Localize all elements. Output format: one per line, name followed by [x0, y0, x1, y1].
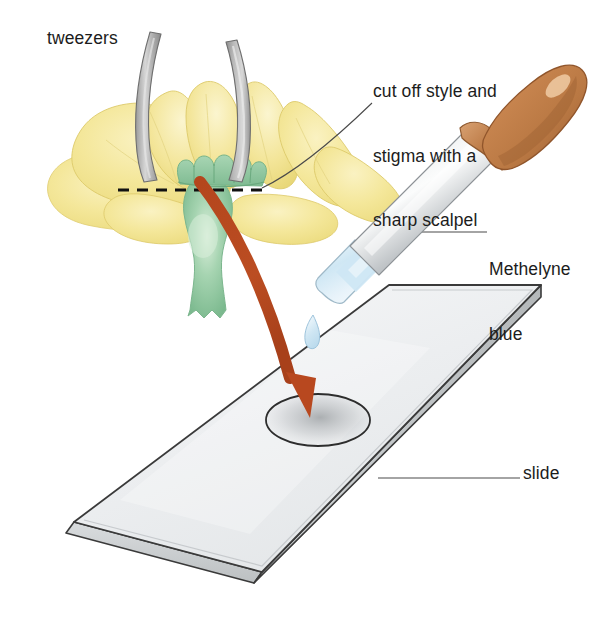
label-stain-line-2: blue: [489, 324, 571, 346]
methylene-blue-droplet: [305, 315, 320, 349]
petal-lower-right: [229, 194, 338, 244]
ovary-highlight: [188, 214, 218, 258]
label-scalpel-line-3: sharp scalpel: [373, 210, 497, 232]
label-cut-off-style-and-stigma: cut off style and stigma with a sharp sc…: [373, 38, 497, 275]
label-scalpel-line-1: cut off style and: [373, 81, 497, 103]
label-scalpel-line-2: stigma with a: [373, 146, 497, 168]
microscope-slide: [66, 285, 541, 583]
label-stain-line-1: Methelyne: [489, 259, 571, 281]
label-slide: slide: [523, 463, 560, 485]
diagram-canvas: tweezers cut off style and stigma with a…: [0, 0, 611, 618]
dropper-handle: [483, 65, 587, 169]
label-methelyne-blue: Methelyne blue: [489, 216, 571, 388]
label-tweezers: tweezers: [47, 28, 118, 50]
